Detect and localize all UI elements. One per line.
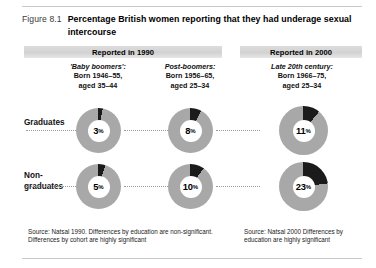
row-label-graduates-text: Graduates (24, 118, 65, 127)
bottom-rule (22, 258, 362, 259)
column-born-label: Born 1966–75, (262, 71, 342, 80)
percent-symbol: % (306, 184, 311, 190)
row-label-non-graduates-line1: Non- (24, 171, 63, 182)
donut-chart-graduates-late-20th-century: 11% (279, 106, 328, 155)
column-aged-label: aged 25–34 (262, 81, 342, 90)
donut-value: 11 (296, 125, 306, 136)
top-rule (22, 6, 362, 7)
figure-caption: Figure 8.1 Percentage British women repo… (22, 13, 364, 38)
donut-center: 23% (293, 176, 315, 198)
percent-symbol: % (98, 184, 103, 190)
leader-line (124, 130, 168, 131)
donut-center: 11% (293, 120, 315, 142)
figure-title: Percentage British women reporting that … (68, 13, 364, 38)
percent-symbol: % (193, 184, 198, 190)
header-reported-2000-label: Reported in 2000 (270, 48, 332, 57)
donut-chart-non-graduates-baby-boomers: 5% (76, 164, 121, 209)
column-subhead-baby-boomers: 'Baby boomers': Born 1946–55, aged 35–44 (58, 62, 138, 90)
row-label-graduates: Graduates (24, 118, 65, 129)
leader-line (26, 186, 76, 187)
figure-number: Figure 8.1 (22, 13, 68, 26)
donut-chart-graduates-post-boomers: 8% (168, 108, 213, 153)
donut-chart-non-graduates-late-20th-century: 23% (279, 162, 328, 211)
column-cohort-label: Late 20th century: (262, 62, 342, 71)
percent-symbol: % (98, 128, 103, 134)
row-label-non-graduates: Non- graduates (24, 171, 63, 192)
donut-center: 10% (180, 176, 202, 198)
column-aged-label: aged 25–34 (150, 81, 230, 90)
column-subhead-late-20th-century: Late 20th century: Born 1966–75, aged 25… (262, 62, 342, 90)
column-born-label: Born 1956–65, (150, 71, 230, 80)
column-aged-label: aged 35–44 (58, 81, 138, 90)
leader-line (26, 130, 76, 131)
leader-line (216, 130, 260, 131)
percent-symbol: % (306, 128, 311, 134)
header-reported-1990-label: Reported in 1990 (92, 48, 154, 57)
leader-line (124, 186, 168, 187)
donut-center: 3% (88, 120, 110, 142)
source-note-right: Source: Natsal 2000 Differences by educa… (244, 228, 356, 245)
donut-center: 8% (180, 120, 202, 142)
donut-chart-non-graduates-post-boomers: 10% (168, 164, 213, 209)
leader-line (216, 186, 260, 187)
donut-chart-graduates-baby-boomers: 3% (76, 108, 121, 153)
donut-value: 23 (296, 181, 306, 192)
header-reported-1990: Reported in 1990 (24, 46, 222, 58)
figure-container: Figure 8.1 Percentage British women repo… (0, 0, 376, 268)
donut-value: 10 (183, 181, 193, 192)
column-subhead-post-boomers: Post-boomers: Born 1956–65, aged 25–34 (150, 62, 230, 90)
percent-symbol: % (190, 128, 195, 134)
column-born-label: Born 1946–55, (58, 71, 138, 80)
header-reported-2000: Reported in 2000 (240, 46, 362, 58)
column-cohort-label: Post-boomers: (150, 62, 230, 71)
donut-center: 5% (88, 176, 110, 198)
column-cohort-label: 'Baby boomers': (58, 62, 138, 71)
source-note-left: Source: Natsal 1990. Differences by educ… (28, 228, 218, 245)
